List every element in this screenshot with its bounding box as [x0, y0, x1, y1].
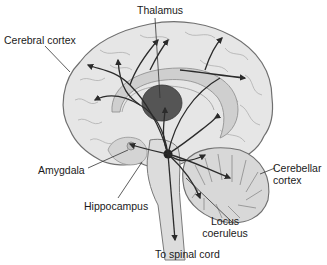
label-locus-line1: Locus: [200, 215, 250, 227]
label-hippocampus: Hippocampus: [84, 200, 148, 212]
label-locus-line2: coeruleus: [200, 227, 250, 239]
thalamus: [142, 85, 182, 121]
label-spinal-cord: To spinal cord: [155, 248, 220, 260]
label-cerebellar-line2: cortex: [273, 174, 321, 186]
label-locus-coeruleus: Locus coeruleus: [200, 215, 250, 239]
label-cerebral-cortex: Cerebral cortex: [4, 34, 76, 46]
label-thalamus: Thalamus: [137, 4, 183, 16]
label-cerebellar-line1: Cerebellar: [273, 162, 321, 174]
label-amygdala: Amygdala: [38, 164, 85, 176]
label-cerebellar-cortex: Cerebellar cortex: [273, 162, 321, 186]
